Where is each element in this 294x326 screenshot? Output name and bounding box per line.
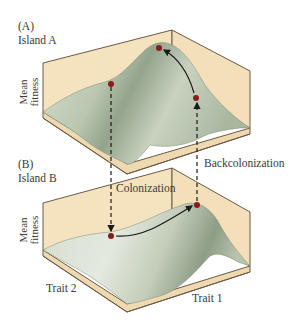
trait-2-axis-label: Trait 2 [46, 282, 77, 295]
panel-a-y-axis-label: Mean fitness [18, 74, 40, 110]
colonization-label: Colonization [116, 182, 175, 195]
population-dot-a-peak [156, 45, 162, 51]
panel-a-title: Island A [18, 34, 57, 47]
backcolonization-label: Backcolonization [204, 157, 284, 170]
panel-b-title: Island B [18, 172, 57, 185]
panel-b-y-axis-label: Mean fitness [18, 212, 40, 248]
population-dot-a-left [108, 81, 114, 87]
population-dot-a-right [193, 95, 199, 101]
population-dot-b-peak [194, 202, 200, 208]
panel-a-landscape [43, 30, 250, 174]
panel-a-letter: (A) [18, 20, 34, 33]
panel-b-letter: (B) [18, 158, 33, 171]
population-dot-b-left [108, 233, 114, 239]
trait-1-axis-label: Trait 1 [192, 292, 223, 305]
